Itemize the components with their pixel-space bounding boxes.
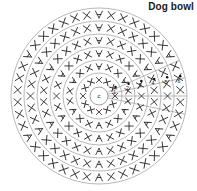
stitch-r6-4 — [140, 24, 150, 34]
stitch-r4-11 — [136, 129, 145, 138]
stitch-r6-34 — [19, 62, 28, 71]
stitch-r5-4 — [138, 39, 147, 48]
stitch-r6-31 — [14, 98, 22, 106]
stitch-r6-40 — [71, 14, 80, 23]
stitch-r6-10 — [177, 86, 185, 94]
stitch-r3-3 — [125, 62, 133, 70]
stitch-r5-14 — [138, 144, 147, 153]
center-label: c — [98, 93, 101, 99]
stitch-r6-26 — [39, 151, 49, 161]
stitch-r5-5 — [147, 47, 156, 56]
stitch-r5-0 — [96, 24, 103, 31]
stitch-r3-4 — [132, 71, 140, 79]
stitch-r6-25 — [48, 158, 58, 168]
stitch-r5-18 — [96, 161, 103, 168]
stitch-r6-30 — [15, 110, 23, 118]
stitch-r1-11 — [87, 79, 94, 86]
stitch-r6-2 — [119, 14, 128, 23]
stitch-r6-11 — [177, 98, 185, 106]
stitch-r5-2 — [118, 27, 127, 36]
stitch-r5-21 — [60, 151, 69, 160]
stitch-r4-22 — [40, 98, 47, 105]
stitch-r6-13 — [170, 121, 179, 130]
stitch-r2-8 — [106, 120, 113, 127]
stitch-r3-17 — [54, 103, 61, 110]
stitch-r6-5 — [149, 31, 159, 41]
stitch-r6-36 — [30, 40, 40, 50]
stitch-r6-6 — [158, 40, 168, 50]
stitch-r4-4 — [136, 54, 145, 63]
stitch-r4-16 — [84, 147, 91, 154]
stitch-r1-0 — [96, 77, 101, 82]
stitch-r5-32 — [50, 39, 59, 48]
stitch-r5-20 — [71, 156, 80, 165]
stitch-r1-5 — [103, 106, 110, 113]
stitch-r5-19 — [83, 160, 91, 168]
stitch-r4-21 — [42, 109, 50, 117]
stitch-r6-1 — [107, 11, 115, 19]
stitch-r2-0 — [96, 64, 102, 70]
stitch-r5-15 — [129, 151, 138, 160]
stitch-r6-23 — [71, 170, 80, 179]
stitch-r5-1 — [107, 25, 115, 33]
stitch-r4-27 — [62, 47, 71, 56]
stitch-r5-35 — [83, 25, 91, 33]
stitch-r4-29 — [84, 38, 91, 45]
stitch-r5-23 — [42, 135, 51, 144]
stitch-r6-39 — [59, 18, 68, 27]
stitch-r4-2 — [117, 41, 125, 49]
stitch-r6-8 — [170, 62, 179, 71]
stitch-r4-12 — [127, 137, 136, 146]
stitch-r3-0 — [96, 51, 102, 57]
stitch-r4-8 — [151, 98, 158, 105]
stitch-r6-15 — [158, 142, 168, 152]
stitch-r6-38 — [48, 24, 58, 34]
stitch-r4-18 — [62, 137, 71, 146]
round-number-1: 1 — [113, 89, 116, 95]
stitch-r2-2 — [114, 69, 122, 77]
stitch-r2-17 — [85, 65, 92, 72]
stitch-r4-24 — [42, 75, 50, 83]
stitch-r4-0 — [96, 37, 102, 43]
stitch-r4-20 — [47, 119, 56, 128]
stitch-r5-6 — [154, 57, 163, 66]
stitch-r2-7 — [114, 115, 122, 123]
stitch-r6-17 — [140, 158, 150, 168]
stitch-r5-13 — [147, 135, 156, 144]
stitch-r6-37 — [39, 31, 49, 41]
stitch-r6-21 — [96, 174, 103, 181]
stitch-r6-35 — [24, 50, 34, 60]
stitch-r5-22 — [50, 144, 59, 153]
round-number-2: 2 — [126, 85, 129, 91]
stitch-r4-3 — [127, 47, 136, 56]
stitch-r1-1 — [103, 79, 110, 86]
round-number-3: 3 — [139, 82, 142, 88]
stitch-r5-11 — [159, 115, 168, 124]
stitch-r4-10 — [143, 119, 152, 128]
stitch-r4-14 — [107, 147, 114, 154]
stitch-r3-9 — [125, 122, 133, 130]
round-number-6: 6 — [178, 78, 181, 84]
stitch-r2-6 — [121, 107, 129, 115]
stitch-r2-11 — [76, 115, 84, 123]
stitch-r4-19 — [53, 129, 62, 138]
stitch-r6-28 — [24, 132, 34, 142]
stitch-r4-7 — [151, 87, 158, 94]
stitch-r3-20 — [58, 71, 66, 79]
stitch-r6-19 — [119, 170, 128, 179]
stitch-r6-32 — [14, 86, 22, 94]
stitch-r6-22 — [83, 173, 91, 181]
stitch-r3-8 — [132, 113, 140, 121]
stitch-r2-16 — [76, 69, 84, 77]
stitch-r1-4 — [109, 100, 116, 107]
stitch-r4-23 — [40, 87, 47, 94]
stitch-r4-17 — [72, 143, 80, 151]
stitch-r3-22 — [74, 55, 82, 63]
stitch-r5-30 — [35, 57, 44, 66]
stitch-r6-18 — [130, 165, 139, 174]
stitch-r3-11 — [106, 133, 113, 140]
stitch-r4-25 — [47, 64, 56, 73]
stitch-r5-7 — [159, 68, 168, 77]
stitch-r6-14 — [165, 132, 175, 142]
stitch-r6-33 — [15, 74, 23, 82]
